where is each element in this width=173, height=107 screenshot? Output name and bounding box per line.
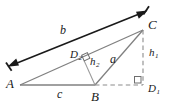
foot-label-d1: D1 <box>148 83 160 96</box>
foot-label-d2-subscript: 2 <box>78 54 82 62</box>
altitude-label-h1-base: h <box>149 46 155 58</box>
side-label-b: b <box>60 24 66 36</box>
altitude-label-h1: h1 <box>149 47 159 60</box>
vertex-label-b: B <box>91 90 99 103</box>
right-angle-d1 <box>135 77 142 84</box>
foot-label-d2-base: D <box>70 48 78 60</box>
altitude-label-h1-subscript: 1 <box>155 52 159 60</box>
foot-label-d1-base: D <box>148 82 156 94</box>
side-label-c: c <box>57 88 62 100</box>
foot-label-d2: D2 <box>70 49 82 62</box>
geometry-diagram: A B C D1 D2 a b c h1 h2 <box>0 0 173 107</box>
side-label-a: a <box>110 53 116 65</box>
vertex-label-a: A <box>6 77 14 90</box>
foot-label-d1-subscript: 1 <box>156 88 160 96</box>
altitude-label-h2-subscript: 2 <box>96 61 100 69</box>
altitude-label-h2-base: h <box>90 55 96 67</box>
altitude-label-h2: h2 <box>90 56 100 69</box>
vertex-label-c: C <box>148 18 157 31</box>
